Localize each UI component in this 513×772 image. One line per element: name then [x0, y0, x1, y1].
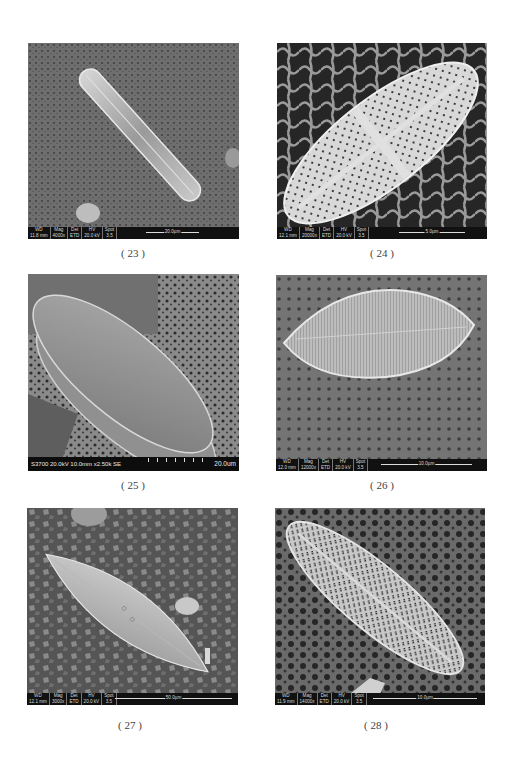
databar-mag: Mag12000x: [299, 459, 319, 471]
diatom-image-27: [27, 508, 238, 705]
figure-caption: ( 24 ): [352, 247, 412, 259]
scale-bar: 50.0µm: [115, 695, 232, 701]
sem-image-24: WD12.1 mm Mag20000x DetETD HV20.0 kV Spo…: [277, 43, 487, 239]
databar-hv: HV20.0 kV: [332, 693, 353, 705]
sem-image-25: S3700 20.0kV 10.0mm x2.50k SE 20.0um: [28, 274, 239, 471]
databar-det: DetETD: [320, 227, 334, 239]
databar-wd: WD12.1 mm: [277, 227, 300, 239]
sem-databar: WD12.1 mm Mag3000x DetETD HV20.0 kV Spot…: [27, 693, 238, 705]
figure-caption: ( 27 ): [100, 719, 160, 731]
databar-mag: Mag3000x: [50, 693, 68, 705]
databar-hv: HV20.0 kV: [82, 227, 103, 239]
scale-bar: 10.0µm: [373, 695, 477, 701]
databar-hv: HV20.0 kV: [333, 459, 354, 471]
databar-wd: WD11.9 mm: [275, 693, 298, 705]
databar-spot: Spot3.5: [355, 227, 369, 239]
databar-wd: WD11.8 mm: [28, 227, 51, 239]
databar-mag: Mag4000x: [51, 227, 69, 239]
databar-det: DetETD: [318, 693, 332, 705]
sem-image-27: WD12.1 mm Mag3000x DetETD HV20.0 kV Spot…: [27, 508, 238, 705]
scale-ticks: [148, 458, 209, 462]
diatom-image-24: [277, 43, 487, 239]
databar-mag: Mag14000x: [298, 693, 318, 705]
databar-det: DetETD: [67, 693, 81, 705]
diatom-image-28: [275, 508, 485, 705]
databar-det: DetETD: [68, 227, 82, 239]
diatom-image-25: [28, 274, 239, 471]
databar-hv: HV20.0 kV: [334, 227, 355, 239]
databar-wd: WD12.0 mm: [276, 459, 299, 471]
scale-bar: 20.0µm: [146, 229, 199, 235]
sem-databar: WD12.0 mm Mag12000x DetETD HV20.0 kV Spo…: [276, 459, 487, 471]
scale-bar-label: 20.0um: [214, 457, 236, 471]
sem-image-28: WD11.9 mm Mag14000x DetETD HV20.0 kV Spo…: [275, 508, 485, 705]
figure-caption: ( 28 ): [346, 719, 406, 731]
sem-databar: WD11.8 mm Mag4000x DetETD HV20.0 kV Spot…: [28, 227, 239, 239]
databar-spot: Spot3.5: [354, 459, 368, 471]
databar-wd: WD12.1 mm: [27, 693, 50, 705]
databar-spot: Spot3.5: [103, 227, 117, 239]
sem-image-26: WD12.0 mm Mag12000x DetETD HV20.0 kV Spo…: [276, 275, 487, 471]
sem-image-23: WD11.8 mm Mag4000x DetETD HV20.0 kV Spot…: [28, 43, 239, 239]
sem-info-bar: S3700 20.0kV 10.0mm x2.50k SE 20.0um: [28, 457, 239, 471]
scale-bar: 5.0µm: [399, 229, 465, 235]
figure-caption: ( 26 ): [352, 479, 412, 491]
scale-bar: 10.0µm: [381, 461, 472, 467]
databar-det: DetETD: [319, 459, 333, 471]
databar-mag: Mag20000x: [300, 227, 320, 239]
databar-hv: HV20.0 kV: [82, 693, 103, 705]
figure-caption: ( 25 ): [103, 479, 163, 491]
sem-info-line: S3700 20.0kV 10.0mm x2.50k SE: [31, 457, 121, 471]
sem-databar: WD11.9 mm Mag14000x DetETD HV20.0 kV Spo…: [275, 693, 485, 705]
diatom-image-26: [276, 275, 487, 471]
figure-caption: ( 23 ): [103, 247, 163, 259]
sem-databar: WD12.1 mm Mag20000x DetETD HV20.0 kV Spo…: [277, 227, 487, 239]
diatom-image-23: [28, 43, 239, 239]
databar-spot: Spot3.5: [352, 693, 366, 705]
